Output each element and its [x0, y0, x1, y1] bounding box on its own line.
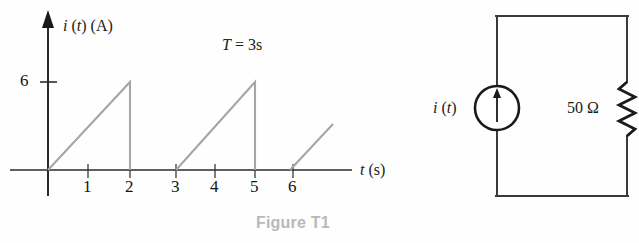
figure-t1-root: i (t) (A) 6 T = 3s 1 2 3 4 5 6 t (s) i (…: [0, 0, 639, 243]
y-axis: [42, 10, 54, 196]
circuit-diagram: [475, 16, 635, 196]
resistor-label: 50 Ω: [567, 100, 599, 116]
y-axis-arrowhead: [42, 10, 54, 28]
figure-caption: Figure T1: [256, 215, 330, 231]
x-tick-label-1: 1: [83, 178, 92, 195]
resistor-zigzag: [619, 82, 635, 136]
waveform-plot: [10, 10, 352, 196]
x-tick-label-6: 6: [288, 178, 297, 195]
ramp-cycle-1: [48, 82, 130, 170]
y-axis-label: i (t) (A): [63, 18, 113, 34]
x-ticks: [88, 164, 293, 178]
period-annotation: T = 3s: [222, 37, 262, 53]
ramp-cycle-3-partial: [290, 124, 333, 170]
x-axis-label: t (s): [360, 162, 385, 178]
y-tick-label-6: 6: [20, 72, 29, 89]
current-source-symbol: [475, 86, 519, 130]
x-tick-label-5: 5: [250, 178, 259, 195]
sawtooth-waveform: [48, 82, 333, 170]
x-tick-label-2: 2: [125, 178, 134, 195]
figure-canvas: [0, 0, 639, 243]
x-tick-label-4: 4: [210, 178, 219, 195]
x-tick-label-3: 3: [171, 178, 180, 195]
current-source-label: i (t): [433, 100, 457, 116]
ramp-cycle-2: [176, 82, 255, 170]
